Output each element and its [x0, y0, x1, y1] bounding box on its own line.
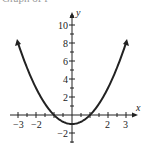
y-tick-label: 4 [63, 74, 68, 85]
y-tick-label: −2 [57, 128, 68, 139]
x-tick-label: −2 [31, 119, 42, 130]
y-tick-label: 10 [58, 20, 68, 31]
curve-arrow-left [15, 39, 21, 46]
x-tick-label: −3 [13, 119, 24, 130]
y-tick-label: 8 [63, 38, 68, 49]
x-axis-label: x [135, 102, 141, 113]
curve-arrow-right [123, 39, 129, 46]
x-tick-label: 2 [105, 119, 110, 130]
x-tick-label: 3 [123, 119, 128, 130]
parabola-chart: x y −3−223 108642−2 [0, 0, 157, 151]
y-axis-label: y [75, 7, 81, 18]
y-tick-label: 6 [63, 56, 68, 67]
x-axis [10, 113, 138, 118]
y-tick-label: 2 [63, 92, 68, 103]
